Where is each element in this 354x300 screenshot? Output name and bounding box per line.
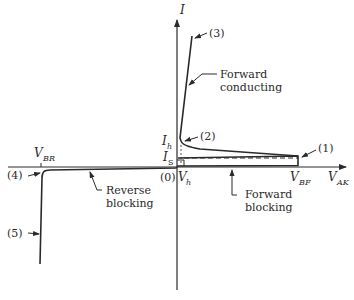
forward-blocking-annotation: Forward blocking [232,170,293,214]
reverse-breakdown-voltage-label: V BR [34,146,55,163]
svg-text:Forward: Forward [245,188,292,201]
forward-conducting-curve [180,36,192,141]
thyristor-characteristic-diagram: I V AK I h I S (0) V h V BF V BR (1) (2 [0,0,354,300]
svg-text:BR: BR [42,154,55,163]
point-4-label: (4) [7,169,23,182]
reverse-blocking-curve [40,167,177,264]
svg-text:Forward: Forward [220,68,267,81]
holding-voltage-label: V h [178,170,191,187]
svg-text:blocking: blocking [245,201,293,214]
point-4-arrow [28,173,40,176]
svg-text:h: h [167,142,172,151]
breakover-voltage-label: V BF [290,170,311,187]
svg-text:h: h [186,178,191,187]
x-axis-label: V AK [328,170,350,187]
svg-text:AK: AK [336,178,350,187]
point-5-arrow [28,233,39,234]
y-axis-label: I [179,3,185,17]
point-1-label: (1) [318,142,334,155]
negative-resistance-curve [181,141,298,156]
svg-text:S: S [168,158,173,167]
origin-label: (0) [160,171,176,184]
svg-text:blocking: blocking [106,197,154,210]
svg-text:conducting: conducting [220,81,282,94]
point-5-label: (5) [7,227,23,240]
svg-text:BF: BF [298,178,311,187]
point-1-arrow [302,150,316,157]
point-3-arrow [195,33,207,38]
point-3-label: (3) [209,27,225,40]
latching-current-label: I S [162,150,173,167]
forward-conducting-annotation: Forward conducting [189,68,282,94]
point-2-label: (2) [200,130,216,143]
origin-bracket [177,160,184,166]
holding-current-label: I h [161,134,172,151]
point-2-arrow [185,137,198,141]
svg-text:Reverse: Reverse [106,184,151,197]
reverse-blocking-annotation: Reverse blocking [90,172,154,210]
